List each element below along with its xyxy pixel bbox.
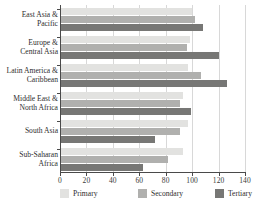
legend-label: Tertiary — [228, 189, 252, 198]
legend-swatch-icon — [138, 189, 147, 198]
bar-secondary — [60, 16, 195, 23]
bar-tertiary — [60, 164, 143, 171]
chart-legend: PrimarySecondaryTertiary — [60, 189, 250, 201]
category-tick — [57, 121, 61, 122]
y-axis-line — [60, 5, 61, 173]
bar-tertiary — [60, 108, 191, 115]
x-tick-label-80: 80 — [162, 176, 170, 185]
legend-label: Secondary — [151, 189, 183, 198]
x-tick-label-20: 20 — [83, 176, 91, 185]
bar-group — [60, 33, 245, 61]
bar-group — [60, 145, 245, 173]
bar-primary — [60, 36, 190, 43]
x-tick-label-140: 140 — [239, 176, 251, 185]
legend-item-secondary[interactable]: Secondary — [138, 189, 183, 198]
x-tick-label-40: 40 — [109, 176, 117, 185]
bar-tertiary — [60, 136, 155, 143]
bar-primary — [60, 92, 183, 99]
plot-area — [60, 5, 245, 173]
bar-secondary — [60, 100, 180, 107]
x-tick-label-120: 120 — [213, 176, 225, 185]
x-tick-label-0: 0 — [58, 176, 62, 185]
bar-secondary — [60, 156, 168, 163]
bar-secondary — [60, 72, 201, 79]
legend-swatch-icon — [215, 189, 224, 198]
bar-group — [60, 5, 245, 33]
bar-tertiary — [60, 80, 227, 87]
bar-secondary — [60, 44, 187, 51]
bar-group — [60, 89, 245, 117]
bar-tertiary — [60, 52, 219, 59]
legend-item-tertiary[interactable]: Tertiary — [215, 189, 252, 198]
bar-group — [60, 117, 245, 145]
bar-tertiary — [60, 24, 203, 31]
bar-group — [60, 61, 245, 89]
category-label: Middle East & North Africa — [0, 94, 58, 112]
bar-primary — [60, 148, 183, 155]
category-label: South Asia — [0, 126, 58, 135]
bar-primary — [60, 64, 188, 71]
legend-label: Primary — [73, 189, 97, 198]
x-tick-label-100: 100 — [186, 176, 198, 185]
legend-item-primary[interactable]: Primary — [60, 189, 97, 198]
bar-primary — [60, 8, 192, 15]
bar-secondary — [60, 128, 180, 135]
grouped-bar-chart: 020406080100120140 East Asia & PacificEu… — [0, 0, 253, 204]
category-label: Sub-Saharan Africa — [0, 150, 58, 168]
x-tick-label-60: 60 — [135, 176, 143, 185]
category-label: Latin America & Caribbean — [0, 66, 58, 84]
bar-primary — [60, 120, 188, 127]
category-label: East Asia & Pacific — [0, 10, 58, 28]
legend-swatch-icon — [60, 189, 69, 198]
category-label: Europe & Central Asia — [0, 38, 58, 56]
gridline-140 — [245, 5, 246, 173]
